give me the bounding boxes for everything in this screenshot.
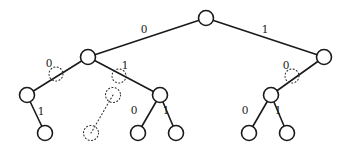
dotted-markers xyxy=(49,67,299,83)
edge-label: 1 xyxy=(275,104,282,116)
tree-node-n10 xyxy=(264,88,279,103)
tree-node-n001 xyxy=(38,126,53,141)
tree-node-n011 xyxy=(169,126,184,141)
edge-label: 1 xyxy=(122,59,129,71)
edge-label: 1 xyxy=(262,23,269,35)
tree-edge-n1-n10 xyxy=(271,57,324,95)
binary-tree-diagram: 0101010101 xyxy=(0,0,347,152)
tree-node-n0 xyxy=(81,50,96,65)
edge-label: 0 xyxy=(283,59,290,71)
tree-node-n1 xyxy=(317,50,332,65)
tree-node-n01 xyxy=(153,88,168,103)
edge-label: 0 xyxy=(131,104,138,116)
tree-node-root xyxy=(199,11,214,26)
tree-nodes xyxy=(20,11,332,141)
tree-edge-n0-n00 xyxy=(27,57,88,95)
tree-node-n100 xyxy=(242,126,257,141)
edge-label: 1 xyxy=(163,104,170,116)
tree-node-n101 xyxy=(280,126,295,141)
tree-node-n00 xyxy=(20,88,35,103)
edge-label: 0 xyxy=(141,23,148,35)
edge-label: 0 xyxy=(46,57,53,69)
edge-label: 1 xyxy=(38,105,45,117)
edge-label: 0 xyxy=(242,104,249,116)
tree-edge-ghost1-ghost2 xyxy=(91,95,113,133)
tree-node-n010 xyxy=(131,126,146,141)
